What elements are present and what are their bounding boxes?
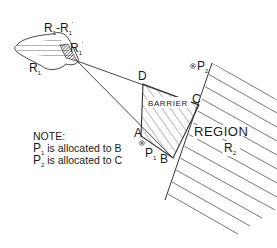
svg-text:P1: P1	[145, 146, 157, 161]
point-p2: P2	[191, 59, 209, 74]
note-line-2: P2 is allocated to C	[33, 153, 122, 168]
note-block: NOTE: P1 is allocated to B P2 is allocat…	[33, 130, 122, 168]
vertex-b-label: B	[160, 152, 168, 166]
svg-text:P2: P2	[197, 59, 209, 74]
vertex-a-label: A	[134, 126, 142, 140]
region-label: REGION	[194, 124, 248, 139]
source-region-r1	[15, 33, 79, 70]
label-r1-minus-r1prime: R1-R1'	[44, 21, 73, 36]
label-r1prime: R1'	[70, 41, 83, 56]
barrier-allocation-diagram: R1-R1' R1' R1 D C A B BARRIER REGION R2 …	[0, 0, 277, 248]
vertex-c-label: C	[192, 92, 201, 106]
barrier-label: BARRIER	[148, 99, 188, 108]
label-r1: R1	[29, 61, 42, 76]
vertex-d-label: D	[138, 69, 147, 83]
